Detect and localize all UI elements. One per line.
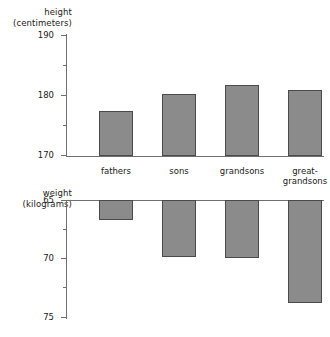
weight-bar-great-grandsons xyxy=(288,200,322,303)
height-x-axis-line xyxy=(66,156,324,157)
weight-tick-label-65: 65 xyxy=(14,196,54,205)
weight-tick-label-75: 75 xyxy=(14,313,54,322)
height-axis-title-line2: (centimeters) xyxy=(0,18,72,29)
height-bar-great-grandsons xyxy=(288,90,322,156)
category-label-great-grandsons-line1: great- xyxy=(275,166,330,176)
weight-chart-panel: weight (kilograms) 65 70 75 xyxy=(0,185,330,337)
height-chart-panel: height (centimeters) 190 180 170 fathers… xyxy=(0,0,330,185)
height-bar-sons xyxy=(162,94,196,156)
height-tick-185 xyxy=(63,65,67,66)
weight-tick-65 xyxy=(61,200,67,201)
weight-tick-75 xyxy=(61,317,67,318)
weight-y-axis-line xyxy=(66,200,67,319)
weight-tick-67-5 xyxy=(63,229,67,230)
category-label-sons: sons xyxy=(149,166,209,176)
height-tick-190 xyxy=(61,35,67,36)
height-tick-170 xyxy=(61,155,67,156)
weight-tick-label-70: 70 xyxy=(14,254,54,263)
height-tick-label-190: 190 xyxy=(14,31,54,40)
generations-height-weight-figure: height (centimeters) 190 180 170 fathers… xyxy=(0,0,330,337)
height-tick-label-180: 180 xyxy=(14,91,54,100)
category-label-grandsons: grandsons xyxy=(212,166,272,176)
weight-tick-72-5 xyxy=(63,287,67,288)
height-tick-label-170: 170 xyxy=(14,151,54,160)
height-tick-180 xyxy=(61,95,67,96)
weight-bar-grandsons xyxy=(225,200,259,258)
weight-bar-fathers xyxy=(99,200,133,220)
weight-bar-sons xyxy=(162,200,196,257)
height-bar-grandsons xyxy=(225,85,259,156)
height-axis-title-line1: height xyxy=(0,7,72,18)
weight-tick-70 xyxy=(61,258,67,259)
category-label-fathers: fathers xyxy=(86,166,146,176)
height-tick-175 xyxy=(63,125,67,126)
height-bar-fathers xyxy=(99,111,133,156)
